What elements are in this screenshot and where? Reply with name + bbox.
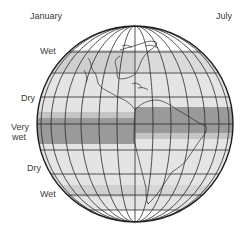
july-label: July <box>216 11 232 21</box>
january-label: January <box>30 11 62 21</box>
label-dry-south: Dry <box>27 163 41 173</box>
label-very: Very <box>11 122 29 132</box>
label-wet-south: Wet <box>40 189 56 199</box>
label-wet-north: Wet <box>40 46 56 56</box>
label-dry-north: Dry <box>21 93 35 103</box>
jan-very-wet <box>30 118 140 144</box>
jul-very-wet <box>130 107 240 133</box>
globe-diagram <box>0 0 245 231</box>
label-wet-equator: wet <box>12 132 26 142</box>
